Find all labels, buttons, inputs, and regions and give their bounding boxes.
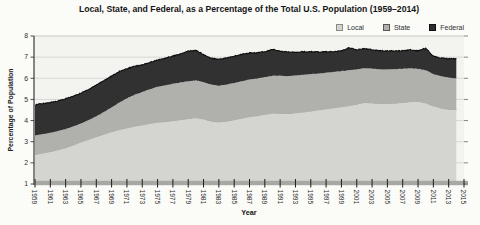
x-tick-label: 1991: [277, 190, 284, 205]
x-tick-label: 1979: [185, 190, 192, 205]
y-tick-label: 1: [24, 180, 28, 187]
x-tick-label: 1965: [77, 190, 84, 205]
x-tick-label: 1999: [338, 190, 345, 205]
x-tick-label: 1983: [215, 190, 222, 205]
figure: Local, State, and Federal, as a Percenta…: [0, 0, 480, 225]
x-tick-label: 1967: [93, 190, 100, 205]
y-tick-label: 4: [24, 117, 28, 124]
x-tick-label: 1975: [154, 190, 161, 205]
x-tick-label: 2001: [353, 190, 360, 205]
x-tick-label: 1969: [108, 190, 115, 205]
x-tick-label: 1981: [200, 190, 207, 205]
x-tick-label: 1963: [62, 190, 69, 205]
y-tick-label: 7: [24, 53, 28, 60]
y-tick-label: 8: [24, 32, 28, 39]
x-tick-label: 1977: [169, 190, 176, 205]
x-tick-label: 1997: [323, 190, 330, 205]
x-tick-label: 1971: [123, 190, 130, 205]
x-tick-label: 2013: [445, 190, 452, 205]
y-tick-label: 5: [24, 96, 28, 103]
x-tick-label: 1989: [261, 190, 268, 205]
plot-area: 1234567819591961196319651967196919711973…: [0, 0, 480, 225]
x-tick-label: 2007: [399, 190, 406, 205]
x-tick-label: 2003: [368, 190, 375, 205]
x-tick-label: 1993: [292, 190, 299, 205]
y-tick-label: 3: [24, 138, 28, 145]
x-tick-label: 2005: [384, 190, 391, 205]
x-tick-label: 1959: [31, 190, 38, 205]
x-tick-label: 1987: [246, 190, 253, 205]
x-tick-label: 1961: [47, 190, 54, 205]
x-tick-label: 1973: [139, 190, 146, 205]
x-tick-label: 2011: [430, 190, 437, 205]
y-tick-labels: 12345678: [24, 32, 28, 187]
x-tick-label: 1995: [307, 190, 314, 205]
x-tick-label: 2009: [414, 190, 421, 205]
y-tick-label: 6: [24, 75, 28, 82]
y-tick-label: 2: [24, 159, 28, 166]
x-tick-label: 1985: [231, 190, 238, 205]
x-axis-title: Year: [34, 208, 464, 217]
x-tick-label: 2015: [460, 190, 467, 205]
